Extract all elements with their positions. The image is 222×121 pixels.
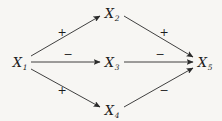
node-x1: X1 bbox=[13, 56, 27, 69]
node-x5: X5 bbox=[198, 56, 212, 69]
node-x3-base: X bbox=[105, 55, 114, 70]
signed-path-diagram: X1 X2 X3 X4 X5 + − + + − − bbox=[0, 0, 222, 121]
node-x2: X2 bbox=[105, 7, 119, 20]
edge-sign-x1-x4: + bbox=[57, 85, 66, 96]
node-x5-subscript: 5 bbox=[208, 63, 213, 72]
edge-sign-x3-x5: − bbox=[155, 49, 164, 60]
edge-sign-x2-x5: + bbox=[159, 27, 168, 38]
node-x1-base: X bbox=[13, 55, 22, 70]
node-x5-base: X bbox=[198, 55, 207, 70]
node-x2-base: X bbox=[105, 6, 114, 21]
node-x4-subscript: 4 bbox=[115, 111, 120, 120]
node-x3-subscript: 3 bbox=[115, 63, 120, 72]
edge-sign-x4-x5: − bbox=[159, 85, 168, 96]
edge-sign-x1-x3: − bbox=[63, 49, 72, 60]
node-x4: X4 bbox=[105, 104, 119, 117]
edge-sign-x1-x2: + bbox=[57, 27, 66, 38]
node-x2-subscript: 2 bbox=[115, 14, 120, 23]
node-x1-subscript: 1 bbox=[23, 63, 28, 72]
node-x3: X3 bbox=[105, 56, 119, 69]
node-x4-base: X bbox=[105, 103, 114, 118]
